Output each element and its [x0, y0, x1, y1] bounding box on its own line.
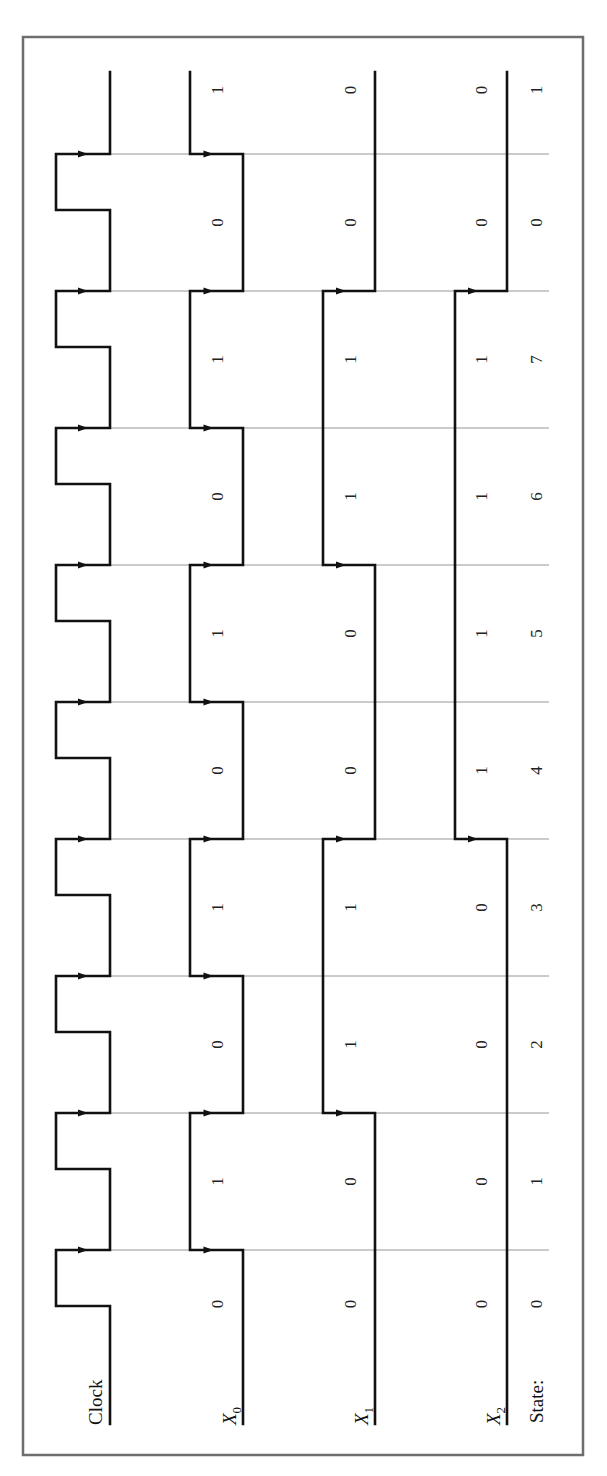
- state-value: 7: [527, 355, 546, 364]
- state-value: 5: [527, 629, 546, 638]
- x1-label: X1: [351, 1407, 376, 1426]
- state-value: 0: [527, 218, 546, 227]
- x2-value: 0: [472, 86, 491, 95]
- x0-value: 0: [208, 766, 227, 775]
- figure-frame: [23, 37, 583, 1455]
- state-value: 1: [527, 86, 546, 95]
- edge-arrow-icon: [78, 972, 88, 979]
- x0-value: 1: [208, 903, 227, 912]
- edge-arrow-icon: [78, 1246, 88, 1253]
- x2-label: X2: [483, 1407, 508, 1426]
- x0-value: 0: [208, 1040, 227, 1049]
- x1-value: 1: [341, 903, 360, 912]
- edge-arrow-icon: [78, 1109, 88, 1116]
- x0-value: 0: [208, 492, 227, 501]
- x2-waveform: [455, 72, 507, 1424]
- x0-value: 1: [208, 86, 227, 95]
- x1-waveform: [323, 72, 375, 1424]
- edge-arrow-icon: [78, 835, 88, 842]
- waveforms: [56, 72, 507, 1424]
- x1-value: 1: [341, 355, 360, 364]
- x1-value: 0: [341, 218, 360, 227]
- state-label: State:: [526, 1380, 547, 1423]
- x2-value: 0: [472, 1177, 491, 1186]
- clock-label: Clock: [85, 1379, 106, 1425]
- bit-value-labels: 0101010101001100110000001111000123456701: [208, 86, 546, 1309]
- x2-value: 0: [472, 903, 491, 912]
- state-value: 6: [527, 492, 546, 501]
- x0-value: 0: [208, 1300, 227, 1309]
- x1-value: 0: [341, 629, 360, 638]
- x2-value: 0: [472, 1040, 491, 1049]
- x0-waveform: [190, 72, 243, 1424]
- edge-arrow-icon: [78, 150, 88, 157]
- x0-value: 0: [208, 218, 227, 227]
- x1-value: 0: [341, 86, 360, 95]
- clock-gridlines: [110, 154, 549, 1250]
- x2-value: 1: [472, 492, 491, 501]
- x2-value: 0: [472, 218, 491, 227]
- x2-value: 0: [472, 1300, 491, 1309]
- x2-value: 1: [472, 766, 491, 775]
- state-value: 3: [527, 903, 546, 912]
- timing-diagram: 0101010101001100110000001111000123456701…: [0, 0, 607, 1476]
- clock-waveform: [56, 72, 110, 1424]
- x1-value: 0: [341, 1177, 360, 1186]
- state-value: 2: [527, 1040, 546, 1049]
- x2-label-sub: 2: [493, 1407, 508, 1414]
- x1-value: 1: [341, 492, 360, 501]
- x0-value: 1: [208, 355, 227, 364]
- state-value: 1: [527, 1177, 546, 1186]
- edge-arrow-icon: [78, 424, 88, 431]
- x1-value: 0: [341, 766, 360, 775]
- state-value: 0: [527, 1300, 546, 1309]
- edge-arrow-icon: [78, 698, 88, 705]
- x0-value: 1: [208, 1177, 227, 1186]
- x0-label: X0: [219, 1407, 244, 1426]
- x0-value: 1: [208, 629, 227, 638]
- edge-arrow-icon: [78, 287, 88, 294]
- x1-value: 0: [341, 1300, 360, 1309]
- x1-value: 1: [341, 1040, 360, 1049]
- x2-value: 1: [472, 355, 491, 364]
- x0-label-sub: 0: [229, 1407, 244, 1414]
- edge-arrow-icon: [78, 561, 88, 568]
- x2-value: 1: [472, 629, 491, 638]
- x1-label-sub: 1: [361, 1407, 376, 1414]
- state-value: 4: [527, 766, 546, 775]
